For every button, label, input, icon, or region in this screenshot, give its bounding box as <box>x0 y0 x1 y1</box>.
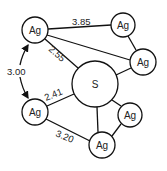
bond-ag2-ag3 <box>128 36 136 50</box>
bond-s-ag5 <box>112 100 121 106</box>
atom-label: Ag <box>137 57 149 68</box>
atom-label: Ag <box>96 140 108 151</box>
distance-label-ag1-s: 2.55 <box>47 43 68 64</box>
silver-sulfide-diagram: S Ag Ag Ag Ag Ag Ag 3.85 2.55 3.00 2.41 … <box>0 0 167 171</box>
atom-label: S <box>92 79 99 90</box>
atom-label: Ag <box>29 25 41 36</box>
atom-ag4: Ag <box>22 99 48 125</box>
atom-s: S <box>72 61 118 107</box>
atom-label: Ag <box>124 110 136 121</box>
atom-ag6: Ag <box>89 132 115 158</box>
bond-ag5-ag6 <box>112 124 121 136</box>
atom-label: Ag <box>29 107 41 118</box>
atom-ag5: Ag <box>118 103 142 127</box>
distance-label-ag1-ag4: 3.00 <box>7 66 26 77</box>
atom-ag3: Ag <box>130 49 156 75</box>
bond-s-ag3 <box>116 68 131 75</box>
bond-s-ag6 <box>97 107 98 132</box>
atom-label: Ag <box>117 20 129 31</box>
distance-label-ag4-ag6: 3.20 <box>54 128 75 145</box>
atom-ag2: Ag <box>111 13 135 37</box>
distance-label-ag1-ag2: 3.85 <box>72 16 91 27</box>
atom-ag1: Ag <box>22 17 48 43</box>
